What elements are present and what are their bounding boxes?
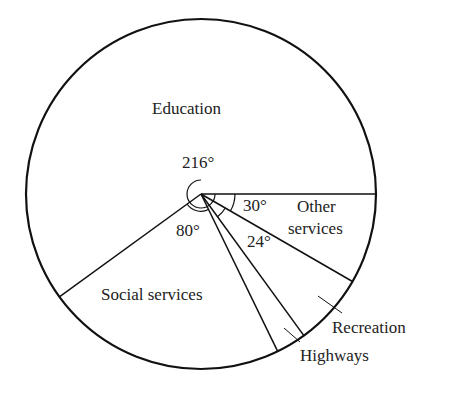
- radius-54: [201, 194, 304, 336]
- label-social-services: Social services: [101, 285, 203, 304]
- angle-216: 216°: [182, 153, 214, 172]
- label-highways: Highways: [300, 346, 369, 365]
- arc-30: [230, 194, 235, 211]
- angle-30: 30°: [243, 196, 267, 215]
- label-education: Education: [152, 99, 221, 118]
- label-recreation: Recreation: [332, 318, 406, 337]
- radius-144: [59, 194, 201, 297]
- highways-leader: [284, 328, 300, 342]
- label-other-services-2: services: [288, 219, 343, 238]
- label-other-services-1: Other: [297, 197, 336, 216]
- angle-24: 24°: [247, 232, 271, 251]
- angle-80: 80°: [176, 221, 200, 240]
- arc-24: [218, 208, 226, 217]
- radius-64: [201, 194, 278, 351]
- pie-chart: Education 216° 30° Other services 24° 80…: [0, 0, 456, 397]
- recreation-leader: [318, 296, 342, 313]
